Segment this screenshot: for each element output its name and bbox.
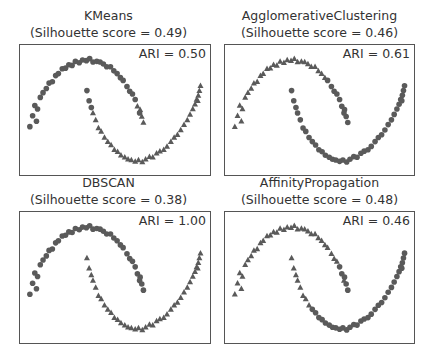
- cluster-0-point: [30, 280, 36, 286]
- panel-title: DBSCAN: [0, 176, 217, 190]
- cluster-1-point: [235, 113, 241, 119]
- cluster-0-point: [35, 274, 41, 280]
- cluster-0-point: [303, 129, 309, 135]
- cluster-0-point: [337, 264, 343, 270]
- cluster-0-point: [50, 246, 56, 252]
- cluster-1-point: [135, 325, 141, 331]
- ari-annotation: ARI = 0.50: [139, 46, 206, 61]
- panel-title: AgglomerativeClustering: [205, 9, 434, 23]
- cluster-1-point: [164, 311, 170, 317]
- cluster-1-point: [248, 253, 254, 259]
- panel-subtitle: (Silhouette score = 0.46): [205, 26, 434, 40]
- cluster-1-point: [196, 255, 202, 261]
- cluster-1-point: [190, 273, 196, 279]
- cluster-1-point: [197, 250, 203, 256]
- cluster-0-point: [389, 117, 395, 123]
- cluster-1-point: [291, 55, 297, 61]
- panel-title: KMeans: [0, 9, 217, 23]
- cluster-0-point: [337, 97, 343, 103]
- cluster-0-point: [385, 289, 391, 295]
- cluster-1-point: [328, 251, 334, 257]
- panel-affinity-propagation: AffinityPropagation (Silhouette score = …: [205, 167, 434, 357]
- cluster-1-point: [93, 117, 99, 123]
- cluster-0-point: [44, 253, 50, 259]
- cluster-0-point: [124, 84, 130, 90]
- cluster-1-point: [306, 302, 312, 308]
- cluster-0-point: [132, 264, 138, 270]
- cluster-1-point: [197, 83, 203, 89]
- cluster-0-point: [400, 93, 406, 99]
- cluster-0-point: [44, 86, 50, 92]
- cluster-0-point: [354, 154, 360, 160]
- cluster-1-point: [260, 70, 266, 76]
- cluster-1-point: [135, 157, 141, 163]
- cluster-1-point: [232, 123, 238, 129]
- panel-subtitle: (Silhouette score = 0.38): [0, 193, 217, 207]
- cluster-1-point: [184, 117, 190, 123]
- cluster-1-point: [232, 291, 238, 297]
- cluster-0-point: [313, 310, 319, 316]
- cluster-0-point: [379, 132, 385, 138]
- cluster-0-point: [56, 71, 62, 77]
- cluster-0-point: [402, 83, 408, 89]
- cluster-1-point: [291, 223, 297, 229]
- cluster-0-point: [130, 91, 136, 97]
- cluster-0-point: [394, 106, 400, 112]
- cluster-1-point: [174, 132, 180, 138]
- ari-annotation: ARI = 1.00: [139, 213, 206, 228]
- cluster-1-point: [181, 289, 187, 295]
- cluster-0-point: [35, 106, 41, 112]
- cluster-1-point: [238, 118, 244, 124]
- cluster-1-point: [235, 280, 241, 286]
- cluster-0-point: [325, 78, 331, 84]
- cluster-0-point: [293, 105, 299, 111]
- cluster-0-point: [298, 117, 304, 123]
- cluster-1-point: [90, 110, 96, 116]
- cluster-1-point: [254, 246, 260, 252]
- cluster-0-point: [368, 144, 374, 150]
- cluster-0-point: [137, 278, 143, 284]
- cluster-0-point: [124, 251, 130, 257]
- cluster-0-point: [341, 110, 347, 116]
- cluster-0-point: [313, 142, 319, 148]
- cluster-0-point: [389, 285, 395, 291]
- cluster-0-point: [368, 311, 374, 317]
- panel-subtitle: (Silhouette score = 0.49): [0, 26, 217, 40]
- cluster-1-point: [190, 106, 196, 112]
- cluster-1-point: [260, 238, 266, 244]
- cluster-1-point: [164, 143, 170, 149]
- cluster-1-point: [101, 134, 107, 140]
- panel-agglomerative: AgglomerativeClustering (Silhouette scor…: [205, 0, 434, 178]
- cluster-1-point: [90, 277, 96, 283]
- panel-dbscan: DBSCAN (Silhouette score = 0.38) ARI = 1…: [0, 167, 217, 357]
- cluster-1-point: [312, 64, 318, 70]
- cluster-0-point: [84, 88, 90, 94]
- cluster-1-point: [86, 265, 92, 271]
- scatter-plot: ARI = 0.61: [224, 44, 415, 176]
- cluster-0-point: [120, 245, 126, 251]
- cluster-1-point: [297, 284, 303, 290]
- cluster-1-point: [184, 284, 190, 290]
- ari-annotation: ARI = 0.61: [343, 46, 410, 61]
- cluster-1-point: [174, 299, 180, 305]
- cluster-1-point: [248, 85, 254, 91]
- cluster-1-point: [187, 111, 193, 117]
- scatter-plot: ARI = 0.50: [19, 44, 211, 176]
- cluster-0-point: [382, 295, 388, 301]
- cluster-0-point: [345, 287, 351, 293]
- cluster-0-point: [27, 124, 33, 130]
- cluster-0-point: [401, 255, 407, 261]
- cluster-1-point: [195, 92, 201, 98]
- cluster-1-point: [295, 277, 301, 283]
- cluster-0-point: [401, 88, 407, 94]
- cluster-0-point: [56, 238, 62, 244]
- cluster-0-point: [120, 78, 126, 84]
- scatter-markers: [20, 45, 212, 177]
- cluster-0-point: [34, 118, 40, 124]
- scatter-plot: ARI = 1.00: [19, 211, 211, 344]
- cluster-0-point: [37, 95, 43, 101]
- scatter-markers: [225, 45, 416, 177]
- cluster-0-point: [30, 113, 36, 119]
- cluster-0-point: [379, 300, 385, 306]
- cluster-1-point: [178, 294, 184, 300]
